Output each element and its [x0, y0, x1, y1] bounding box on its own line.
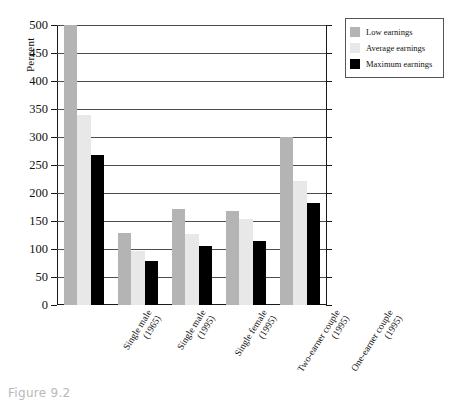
- y-axis-tick: [51, 193, 57, 194]
- gridline: [57, 25, 327, 26]
- bar: [280, 137, 294, 305]
- bar: [131, 251, 145, 305]
- figure-9-2: Percent 050100150200250300350400450500 S…: [0, 0, 450, 410]
- y-axis-tick-right: [326, 109, 332, 110]
- gridline: [57, 53, 327, 54]
- y-axis-tick-label: 50: [36, 270, 49, 285]
- y-axis-tick-right: [326, 193, 332, 194]
- y-axis-tick-label: 300: [29, 130, 48, 145]
- y-axis-tick: [51, 221, 57, 222]
- legend-label: Low earnings: [366, 27, 413, 37]
- bar: [253, 241, 267, 305]
- bar: [64, 25, 78, 305]
- x-axis-category-label: Single male(1995): [175, 308, 218, 358]
- y-axis-tick: [51, 305, 57, 306]
- legend-swatch: [350, 43, 360, 53]
- y-axis-tick-label: 250: [29, 158, 48, 173]
- legend-item: Average earnings: [350, 40, 439, 56]
- bar: [307, 203, 321, 305]
- y-axis-title: Percent: [24, 2, 36, 72]
- gridline: [57, 81, 327, 82]
- bar: [118, 233, 132, 305]
- y-axis-tick: [51, 277, 57, 278]
- bar: [77, 115, 91, 305]
- x-axis-category-label: Single female(1995): [233, 308, 279, 364]
- bar: [172, 209, 186, 305]
- y-axis-tick-right: [326, 137, 332, 138]
- figure-caption: Figure 9.2: [8, 386, 71, 400]
- legend-item: Low earnings: [350, 24, 439, 40]
- y-axis-tick: [51, 53, 57, 54]
- bar: [145, 261, 159, 305]
- y-axis-tick-label: 150: [29, 214, 48, 229]
- x-axis-category-label: Two-earner couple(1995): [296, 308, 352, 380]
- y-axis-tick: [51, 137, 57, 138]
- y-axis-tick-right: [326, 81, 332, 82]
- y-axis-tick-label: 100: [29, 242, 48, 257]
- bar: [185, 234, 199, 305]
- y-axis-tick: [51, 249, 57, 250]
- y-axis-tick-right: [326, 277, 332, 278]
- legend-label: Average earnings: [366, 43, 425, 53]
- y-axis-tick: [51, 109, 57, 110]
- y-axis-tick-right: [326, 305, 332, 306]
- y-axis-tick-right: [326, 249, 332, 250]
- y-axis-tick-label: 400: [29, 74, 48, 89]
- bar: [293, 181, 307, 305]
- legend-swatch: [350, 59, 360, 69]
- x-axis-category-labels: Single male(1965)Single male(1995)Single…: [57, 308, 327, 388]
- y-axis-tick-label: 500: [29, 18, 48, 33]
- legend-swatch: [350, 27, 360, 37]
- y-axis-tick-label: 0: [42, 298, 48, 313]
- y-axis-tick: [51, 25, 57, 26]
- x-axis-category-label: One-earner couple(1995): [349, 308, 405, 379]
- x-axis-category-label: Single male(1965): [121, 308, 164, 358]
- y-axis-tick-right: [326, 25, 332, 26]
- y-axis-tick: [51, 81, 57, 82]
- y-axis-tick: [51, 165, 57, 166]
- legend-item: Maximum earnings: [350, 56, 439, 72]
- y-axis-tick-label: 200: [29, 186, 48, 201]
- bar: [226, 211, 240, 305]
- legend-label: Maximum earnings: [366, 59, 432, 69]
- bar: [199, 246, 213, 305]
- y-axis-tick-right: [326, 221, 332, 222]
- bar: [91, 155, 105, 305]
- y-axis-tick-label: 450: [29, 46, 48, 61]
- y-axis-tick-right: [326, 165, 332, 166]
- legend: Low earningsAverage earningsMaximum earn…: [345, 18, 444, 78]
- y-axis-tick-right: [326, 53, 332, 54]
- plot-area: 050100150200250300350400450500: [57, 25, 327, 305]
- gridline: [57, 109, 327, 110]
- y-axis-tick-label: 350: [29, 102, 48, 117]
- bar: [239, 219, 253, 305]
